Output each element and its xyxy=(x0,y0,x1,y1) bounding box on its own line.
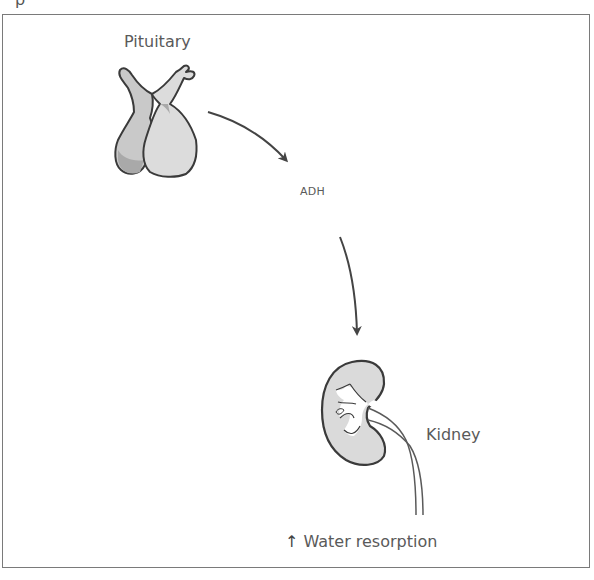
increase-arrow-icon: ↑ xyxy=(285,534,298,550)
diagram-canvas xyxy=(0,0,594,580)
arrow-pituitary-to-adh xyxy=(208,112,286,160)
effect-label: Water resorption xyxy=(303,532,437,551)
adh-label: ADH xyxy=(300,185,325,198)
pituitary-label: Pituitary xyxy=(124,32,191,51)
kidney-icon xyxy=(322,361,423,515)
pituitary-gland-icon xyxy=(115,65,196,176)
water-resorption-effect: ↑ Water resorption xyxy=(285,532,437,551)
arrow-adh-to-kidney xyxy=(340,237,357,333)
kidney-label: Kidney xyxy=(426,425,481,444)
